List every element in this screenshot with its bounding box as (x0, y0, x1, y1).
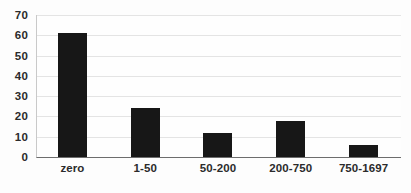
y-tick-label: 30 (15, 90, 28, 102)
y-tick-label: 60 (15, 29, 28, 41)
x-tick-label: 1-50 (109, 162, 182, 174)
bar-chart: 70 60 50 40 30 20 10 0 zero 1-50 50-200 … (0, 0, 411, 193)
x-tick-label: 200-750 (254, 162, 327, 174)
y-axis: 70 60 50 40 30 20 10 0 (0, 0, 34, 193)
bar-slot (254, 15, 327, 157)
bar[interactable] (349, 145, 378, 157)
bar[interactable] (276, 121, 305, 158)
bar-slot (327, 15, 400, 157)
bar-slot (182, 15, 255, 157)
bars-layer (36, 15, 400, 157)
x-tick-label: 750-1697 (327, 162, 400, 174)
x-axis: zero 1-50 50-200 200-750 750-1697 (36, 162, 400, 174)
y-tick-label: 10 (15, 131, 28, 143)
bar-slot (109, 15, 182, 157)
y-tick-label: 20 (15, 110, 28, 122)
bar[interactable] (203, 133, 232, 157)
x-tick-label: zero (36, 162, 109, 174)
bar[interactable] (58, 33, 87, 157)
y-tick-label: 70 (15, 9, 28, 21)
y-tick-label: 0 (21, 151, 28, 163)
bar-slot (36, 15, 109, 157)
bar[interactable] (131, 108, 160, 157)
y-tick-label: 50 (15, 50, 28, 62)
x-tick-label: 50-200 (182, 162, 255, 174)
y-tick-label: 40 (15, 70, 28, 82)
